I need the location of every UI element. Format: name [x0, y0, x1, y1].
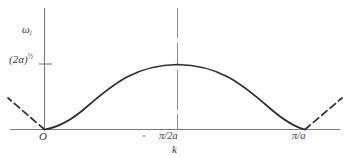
x-tick-label-pi-over-a: π/a	[292, 131, 305, 142]
left-dashed-extension	[8, 98, 45, 130]
x-tick-label-pi-over-2a: π/2a	[159, 131, 178, 142]
right-dashed-extension	[305, 98, 342, 130]
y-axis-label: ωl	[22, 24, 32, 36]
y-axis-tick-exponent: ½	[28, 53, 33, 61]
dispersion-figure: ωl (2α)½ O π/2a π/a k	[0, 0, 350, 158]
y-axis-tick-value: (2α)	[9, 53, 28, 65]
x-tick-label-origin: O	[39, 131, 47, 142]
y-axis-tick-label: (2α)½	[9, 54, 33, 65]
scan-speck-artifact	[143, 135, 145, 137]
y-axis-label-symbol: ω	[22, 23, 30, 35]
dispersion-curve	[45, 65, 306, 130]
y-axis-label-subscript: l	[30, 29, 32, 36]
x-axis-label: k	[172, 144, 177, 155]
